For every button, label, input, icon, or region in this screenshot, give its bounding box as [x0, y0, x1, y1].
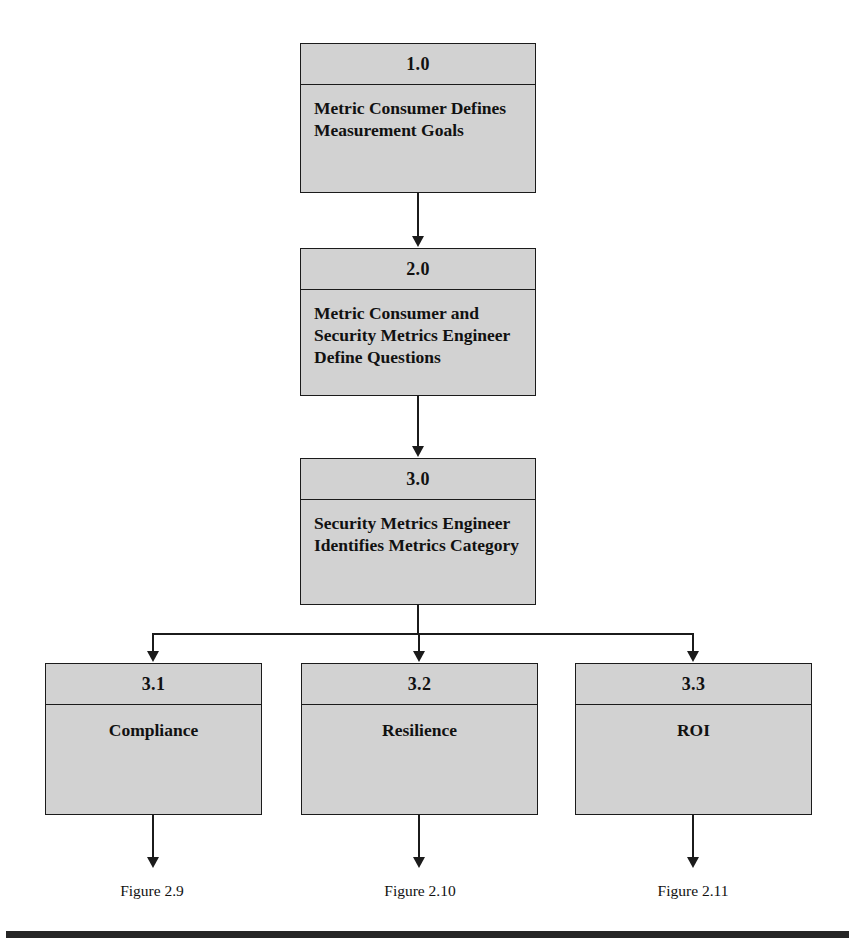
process-node-3-3[interactable]: 3.3 ROI [575, 663, 812, 815]
connector-3-2-to-figure-2-10 [418, 815, 420, 858]
connector-3-0-stem [417, 605, 419, 635]
arrowhead-to-figure-2-9 [147, 857, 159, 868]
connector-3-1-to-figure-2-9 [152, 815, 154, 858]
figure-reference-2-11[interactable]: Figure 2.11 [658, 882, 729, 900]
arrowhead-to-figure-2-10 [413, 857, 425, 868]
process-node-1-0-label: Metric Consumer Defines Measurement Goal… [301, 85, 535, 192]
process-node-3-0-label: Security Metrics Engineer Identifies Met… [301, 500, 535, 604]
process-node-3-1-label: Compliance [46, 705, 261, 814]
arrowhead-to-figure-2-11 [687, 857, 699, 868]
connector-branch-to-3-3 [692, 633, 694, 653]
figure-reference-2-10[interactable]: Figure 2.10 [384, 882, 455, 900]
connector-branch-bus [153, 633, 694, 635]
connector-3-3-to-figure-2-11 [692, 815, 694, 858]
process-node-3-0[interactable]: 3.0 Security Metrics Engineer Identifies… [300, 458, 536, 605]
connector-1-0-to-2-0 [417, 193, 419, 237]
connector-branch-to-3-2 [418, 633, 420, 653]
arrowhead-to-3-0 [412, 446, 424, 457]
connector-2-0-to-3-0 [417, 396, 419, 447]
process-node-1-0[interactable]: 1.0 Metric Consumer Defines Measurement … [300, 43, 536, 193]
connector-branch-to-3-1 [152, 633, 154, 653]
page-footer-rule [6, 931, 849, 938]
process-node-1-0-id: 1.0 [301, 44, 535, 85]
process-node-3-2[interactable]: 3.2 Resilience [301, 663, 538, 815]
process-node-2-0[interactable]: 2.0 Metric Consumer and Security Metrics… [300, 248, 536, 396]
arrowhead-to-2-0 [412, 236, 424, 247]
process-node-3-2-id: 3.2 [302, 664, 537, 705]
arrowhead-to-3-1 [147, 651, 159, 662]
process-node-2-0-id: 2.0 [301, 249, 535, 290]
process-node-3-1-id: 3.1 [46, 664, 261, 705]
arrowhead-to-3-2 [413, 651, 425, 662]
diagram-canvas: 1.0 Metric Consumer Defines Measurement … [0, 0, 855, 951]
process-node-3-2-label: Resilience [302, 705, 537, 814]
figure-reference-2-9[interactable]: Figure 2.9 [120, 882, 184, 900]
process-node-3-0-id: 3.0 [301, 459, 535, 500]
process-node-3-1[interactable]: 3.1 Compliance [45, 663, 262, 815]
process-node-3-3-label: ROI [576, 705, 811, 814]
process-node-2-0-label: Metric Consumer and Security Metrics Eng… [301, 290, 535, 395]
process-node-3-3-id: 3.3 [576, 664, 811, 705]
arrowhead-to-3-3 [687, 651, 699, 662]
